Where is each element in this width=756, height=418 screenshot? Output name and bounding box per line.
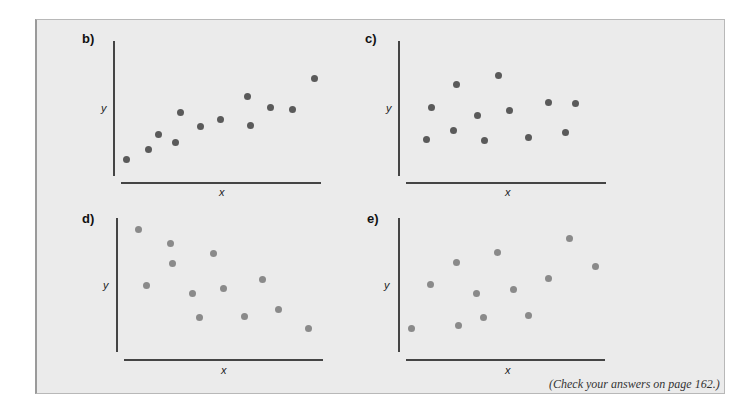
x-axis-label: x [221, 364, 227, 376]
y-axis [113, 41, 115, 176]
data-point [473, 290, 480, 297]
data-point [289, 106, 296, 113]
data-point [453, 259, 460, 266]
data-point [169, 260, 176, 267]
data-point [453, 81, 460, 88]
data-point [408, 325, 415, 332]
data-point [494, 249, 501, 256]
x-axis [406, 182, 606, 184]
data-point [423, 136, 430, 143]
data-point [244, 93, 251, 100]
data-point [481, 137, 488, 144]
data-point [172, 139, 179, 146]
data-point [592, 263, 599, 270]
data-point [311, 75, 318, 82]
data-point [455, 322, 462, 329]
data-point [545, 275, 552, 282]
data-point [196, 314, 203, 321]
data-point [189, 290, 196, 297]
data-point [510, 286, 517, 293]
x-axis [406, 359, 605, 361]
data-point [267, 104, 274, 111]
data-point [210, 250, 217, 257]
data-point [474, 112, 481, 119]
data-point [572, 100, 579, 107]
data-point [305, 325, 312, 332]
data-point [167, 240, 174, 247]
data-point [123, 156, 130, 163]
data-point [428, 104, 435, 111]
y-axis-label: y [384, 279, 390, 291]
y-axis-label: y [101, 102, 107, 114]
data-point [247, 122, 254, 129]
x-axis [124, 359, 323, 361]
panel-label: e) [367, 211, 379, 226]
data-point [562, 129, 569, 136]
data-point [525, 312, 532, 319]
y-axis-label: y [386, 102, 392, 114]
y-axis [116, 218, 118, 352]
panel-label: b) [82, 31, 94, 46]
data-point [506, 107, 513, 114]
data-point [143, 282, 150, 289]
data-point [145, 146, 152, 153]
data-point [545, 99, 552, 106]
y-axis [398, 41, 400, 176]
data-point [427, 281, 434, 288]
figure-frame [35, 19, 725, 394]
x-axis-label: x [219, 186, 225, 198]
x-axis [121, 182, 321, 184]
y-axis-label: y [103, 279, 109, 291]
x-axis-label: x [505, 186, 511, 198]
x-axis-label: x [505, 364, 511, 376]
panel-label: d) [82, 211, 94, 226]
data-point [525, 134, 532, 141]
data-point [259, 276, 266, 283]
data-point [177, 109, 184, 116]
data-point [241, 313, 248, 320]
data-point [220, 285, 227, 292]
data-point [275, 306, 282, 313]
data-point [197, 123, 204, 130]
data-point [566, 235, 573, 242]
data-point [450, 127, 457, 134]
data-point [495, 72, 502, 79]
panel-label: c) [365, 31, 377, 46]
data-point [217, 116, 224, 123]
data-point [480, 314, 487, 321]
data-point [155, 131, 162, 138]
answers-note: (Check your answers on page 162.) [549, 377, 720, 392]
data-point [135, 226, 142, 233]
y-axis [398, 218, 400, 352]
